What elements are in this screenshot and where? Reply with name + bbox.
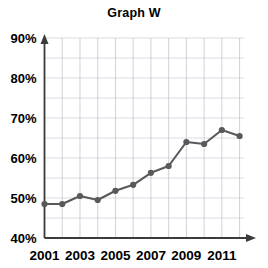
y-tick-label: 40%	[10, 231, 36, 246]
y-tick-label: 90%	[10, 31, 36, 46]
data-point-marker: 2003: 50.5%	[77, 193, 83, 199]
x-tick-label: 2011	[207, 248, 237, 263]
data-point-marker: 2005: 51.8%	[112, 188, 118, 194]
series-polyline	[45, 130, 240, 204]
data-point-marker: 2008: 58%	[166, 163, 172, 169]
data-point-marker: 2002: 48.5%	[59, 201, 65, 207]
data-point-marker: 2010: 63.5%	[201, 141, 207, 147]
x-axis-tick-labels: 200120032005200720092011	[29, 248, 237, 263]
data-point-marker: 2007: 56.3%	[148, 170, 154, 176]
x-tick-label: 2009	[171, 248, 201, 263]
x-tick-label: 2003	[65, 248, 96, 263]
y-tick-label: 70%	[10, 111, 36, 126]
data-point-marker: 2011: 67%	[219, 127, 225, 133]
x-tick-label: 2007	[136, 248, 166, 263]
y-tick-label: 60%	[10, 151, 36, 166]
y-tick-label: 50%	[10, 191, 36, 206]
data-point-marker: 2009: 64%	[183, 139, 189, 145]
chart-container: Graph W 40%50%60%70%80%90% 2001200320052…	[0, 0, 268, 268]
data-point-marker: 2006: 53.3%	[130, 182, 136, 188]
data-point-marker: 2012: 65.5%	[236, 133, 242, 139]
y-tick-label: 80%	[10, 71, 36, 86]
horizontal-gridlines	[45, 38, 245, 238]
data-series-markers: 2001: 48.5%2002: 48.5%2003: 50.5%2004: 4…	[41, 127, 242, 207]
x-tick-label: 2001	[29, 248, 60, 263]
data-point-marker: 2001: 48.5%	[41, 201, 47, 207]
line-chart-plot: 40%50%60%70%80%90% 200120032005200720092…	[0, 0, 268, 268]
y-axis-tick-labels: 40%50%60%70%80%90%	[10, 31, 36, 246]
data-point-marker: 2004: 49.5%	[95, 197, 101, 203]
x-tick-label: 2005	[100, 248, 131, 263]
data-series-line	[45, 130, 240, 204]
